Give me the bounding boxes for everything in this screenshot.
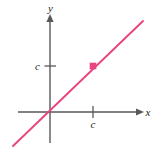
- plot-point-marker: [90, 63, 97, 70]
- x-axis-label: x: [145, 106, 151, 118]
- plot-line: [13, 21, 143, 146]
- x-axis-arrow-icon: [136, 108, 144, 115]
- graph-figure: x y c c: [0, 0, 160, 150]
- y-axis-tick-label-c: c: [35, 60, 40, 72]
- y-axis-arrow-icon: [46, 14, 53, 22]
- y-axis-label: y: [47, 2, 53, 14]
- x-axis-tick-label-c: c: [91, 118, 96, 130]
- coordinate-plane: x y c c: [0, 0, 160, 150]
